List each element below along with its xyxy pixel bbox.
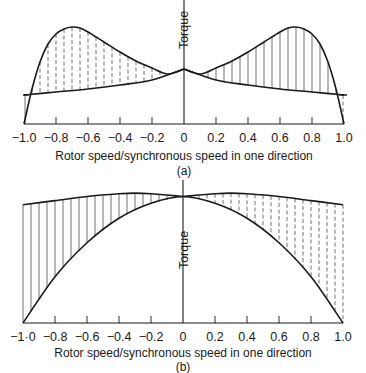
- x-tick-label: −0.8: [43, 330, 68, 344]
- x-tick-label: 0: [180, 330, 187, 344]
- x-tick-label: −0.4: [107, 330, 132, 344]
- x-tick-label: 0.8: [303, 131, 320, 145]
- x-tick-label: −0.2: [139, 330, 164, 344]
- y-axis-label: Torque: [177, 11, 191, 49]
- torque-speed-figure: −1.0−0.8−0.6−0.4−0.200.20.40.60.81.0Roto…: [0, 0, 366, 373]
- x-tick-label: 0: [181, 131, 188, 145]
- x-tick-label: −0.6: [76, 131, 101, 145]
- x-tick-label: 0.2: [207, 131, 224, 145]
- chart-panel-a: −1.0−0.8−0.6−0.4−0.200.20.40.60.81.0Roto…: [12, 0, 353, 178]
- x-tick-label: −0.4: [108, 131, 133, 145]
- y-axis-label: Torque: [177, 231, 191, 269]
- panel-caption: (a): [177, 164, 192, 178]
- x-tick-label: 0.8: [302, 330, 319, 344]
- x-axis-label: Rotor speed/synchronous speed in one dir…: [55, 149, 313, 163]
- x-tick-label: −0.8: [44, 131, 69, 145]
- x-tick-label: −0.6: [75, 330, 100, 344]
- panel-caption: (b): [176, 360, 191, 373]
- x-tick-label: −1·0: [10, 330, 35, 344]
- x-tick-label: 0.6: [271, 131, 288, 145]
- x-tick-label: 1.0: [335, 131, 352, 145]
- x-tick-label: 0.6: [270, 330, 287, 344]
- chart-panel-b: −1·0−0.8−0.6−0.4−0.200.20.40.60.81.0Roto…: [10, 180, 351, 373]
- x-tick-label: −1.0: [12, 131, 37, 145]
- x-tick-label: −0.2: [140, 131, 165, 145]
- x-tick-label: 0.4: [239, 131, 256, 145]
- x-axis-label: Rotor speed/synchronous speed in one dir…: [54, 346, 312, 360]
- x-tick-label: 0.2: [206, 330, 223, 344]
- x-tick-label: 0.4: [238, 330, 255, 344]
- x-tick-label: 1.0: [334, 330, 351, 344]
